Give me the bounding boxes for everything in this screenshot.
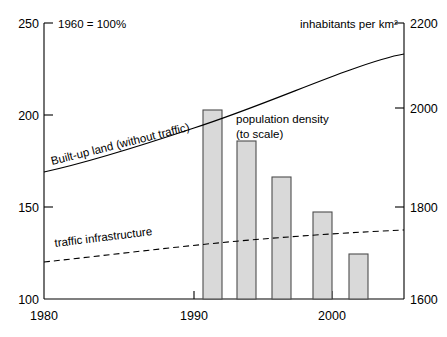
table-row bbox=[349, 254, 368, 299]
traffic-infrastructure-label: traffic infrastructure bbox=[54, 225, 153, 249]
x-tick-label-1990: 1990 bbox=[180, 309, 208, 323]
right-tick-label-2200: 2200 bbox=[410, 17, 438, 31]
left-tick-label-150: 150 bbox=[18, 201, 39, 215]
right-tick-label-1600: 1600 bbox=[410, 293, 438, 307]
chart-canvas: 250 200 150 100 2200 2000 1800 1600 1980… bbox=[0, 0, 447, 337]
left-tick-label-250: 250 bbox=[18, 17, 39, 31]
chart-container: 250 200 150 100 2200 2000 1800 1600 1980… bbox=[0, 0, 447, 337]
population-density-label-line1: population density bbox=[236, 113, 329, 125]
x-tick-label-1980: 1980 bbox=[30, 309, 58, 323]
bars-group bbox=[203, 110, 368, 299]
table-row bbox=[313, 212, 332, 299]
right-tick-label-2000: 2000 bbox=[410, 102, 438, 116]
table-row bbox=[203, 110, 222, 299]
left-axis-note: 1960 = 100% bbox=[58, 18, 126, 30]
left-tick-label-100: 100 bbox=[18, 293, 39, 307]
right-tick-label-1800: 1800 bbox=[410, 201, 438, 215]
right-axis-note: inhabitants per km² bbox=[300, 18, 398, 30]
left-tick-label-200: 200 bbox=[18, 109, 39, 123]
population-density-label-line2: (to scale) bbox=[236, 128, 283, 140]
x-tick-label-2000: 2000 bbox=[318, 309, 346, 323]
table-row bbox=[237, 141, 256, 299]
built-up-land-label: Built-up land (without traffic) bbox=[50, 121, 191, 167]
